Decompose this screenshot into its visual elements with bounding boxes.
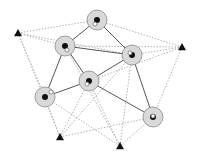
node-marker-dot (65, 48, 69, 52)
node-D (79, 71, 99, 91)
dotted-edge (18, 33, 60, 137)
dotted-edge (97, 20, 182, 47)
nodes (35, 10, 163, 127)
node-F (143, 107, 163, 127)
node-marker-dot (93, 22, 97, 26)
triangle-anchor-icon (178, 43, 186, 50)
node-A (87, 10, 107, 30)
dotted-edge (65, 46, 120, 146)
solid-edge (89, 81, 153, 117)
dotted-edge (45, 97, 120, 146)
triangle-anchor-icon (14, 29, 22, 36)
dotted-edges (18, 20, 182, 146)
node-marker-dot (151, 114, 155, 118)
dotted-edge (18, 20, 97, 33)
node-marker-dot (128, 51, 132, 55)
dotted-edge (60, 117, 153, 137)
node-E (35, 87, 55, 107)
node-center-dot (42, 94, 48, 100)
node-marker-dot (85, 82, 89, 86)
dotted-edge (153, 47, 182, 117)
network-diagram (0, 0, 197, 155)
node-C (122, 45, 142, 65)
node-marker-dot (49, 90, 53, 94)
node-B (55, 36, 75, 56)
